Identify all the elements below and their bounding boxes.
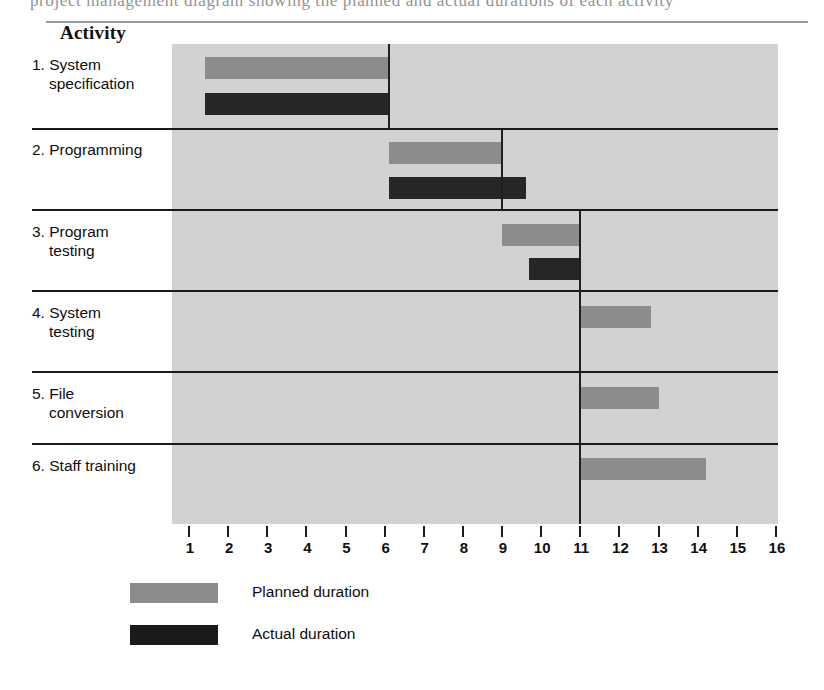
- row-separator-3: [32, 290, 778, 292]
- x-axis-tick-label: 13: [645, 539, 675, 556]
- row-separator-4: [32, 371, 778, 373]
- x-axis-tick: [462, 526, 464, 537]
- activity-label-6-line1: 6. Staff training: [32, 456, 172, 475]
- gantt-bar-actual: [389, 177, 526, 199]
- x-axis-tick: [697, 526, 699, 537]
- x-axis-tick-label: 4: [292, 539, 322, 556]
- legend-swatch-planned: [130, 583, 218, 603]
- legend-label-planned: Planned duration: [252, 583, 369, 601]
- gantt-bar-planned: [580, 306, 650, 328]
- x-axis-tick: [501, 526, 503, 537]
- x-axis-tick-label: 7: [410, 539, 440, 556]
- row-separator-2: [32, 209, 778, 211]
- x-axis-tick: [658, 526, 660, 537]
- activity-label-3-line2: testing: [32, 241, 172, 260]
- x-axis-tick: [618, 526, 620, 537]
- gantt-bar-planned: [205, 57, 389, 79]
- x-axis-tick-label: 1: [175, 539, 205, 556]
- activity-label-3-line1: 3. Program: [32, 222, 172, 241]
- progress-line-segment: [579, 211, 581, 524]
- activity-label-1: 1. System specification: [32, 55, 172, 93]
- x-axis-tick: [305, 526, 307, 537]
- x-axis-tick-label: 11: [566, 539, 596, 556]
- x-axis-tick-label: 12: [605, 539, 635, 556]
- x-axis-tick-label: 6: [371, 539, 401, 556]
- x-axis-tick: [266, 526, 268, 537]
- legend-label-actual: Actual duration: [252, 625, 355, 643]
- activity-label-5-line2: conversion: [32, 403, 172, 422]
- legend-swatch-actual: [130, 625, 218, 645]
- activity-label-1-line2: specification: [32, 74, 172, 93]
- activity-label-4: 4. System testing: [32, 303, 172, 341]
- activity-label-1-line1: 1. System: [32, 55, 172, 74]
- activity-column-header: Activity: [60, 22, 126, 44]
- x-axis-tick-label: 15: [723, 539, 753, 556]
- x-axis-tick: [345, 526, 347, 537]
- gantt-bar-actual: [529, 258, 580, 280]
- progress-line-segment: [501, 130, 503, 211]
- activity-label-4-line1: 4. System: [32, 303, 172, 322]
- x-axis-tick-label: 8: [449, 539, 479, 556]
- activity-label-2: 2. Programming: [32, 140, 172, 159]
- x-axis-tick: [188, 526, 190, 537]
- x-axis-tick: [384, 526, 386, 537]
- row-separator-5: [32, 443, 778, 445]
- activity-label-5: 5. File conversion: [32, 384, 172, 422]
- x-axis-tick: [579, 526, 581, 537]
- x-axis-tick-label: 5: [332, 539, 362, 556]
- gantt-chart-figure: project management diagram showing the p…: [0, 0, 824, 690]
- header-rule: [46, 21, 808, 23]
- x-axis-tick-label: 14: [684, 539, 714, 556]
- gantt-bar-actual: [205, 93, 389, 115]
- gantt-bar-planned: [389, 142, 502, 164]
- x-axis-tick-label: 16: [762, 539, 792, 556]
- plot-area-background: [172, 44, 778, 524]
- x-axis-tick-label: 10: [527, 539, 557, 556]
- x-axis-tick: [736, 526, 738, 537]
- activity-label-4-line2: testing: [32, 322, 172, 341]
- row-separator-1: [32, 128, 778, 130]
- activity-label-2-line1: 2. Programming: [32, 140, 172, 159]
- activity-label-5-line1: 5. File: [32, 384, 172, 403]
- activity-label-3: 3. Program testing: [32, 222, 172, 260]
- x-axis-tick: [227, 526, 229, 537]
- gantt-bar-planned: [502, 224, 580, 246]
- x-axis-tick-label: 3: [253, 539, 283, 556]
- activity-label-6: 6. Staff training: [32, 456, 172, 475]
- x-axis-tick: [775, 526, 777, 537]
- gantt-bar-planned: [580, 387, 658, 409]
- x-axis-tick-label: 9: [488, 539, 518, 556]
- x-axis-tick: [423, 526, 425, 537]
- progress-line-segment: [388, 44, 390, 130]
- x-axis-tick-label: 2: [214, 539, 244, 556]
- page-bleed-text: project management diagram showing the p…: [30, 0, 810, 13]
- x-axis-tick: [540, 526, 542, 537]
- gantt-bar-planned: [580, 458, 705, 480]
